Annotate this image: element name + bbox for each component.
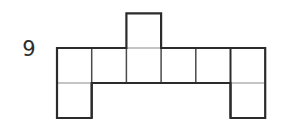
polyomino-grid [0,0,282,126]
figure-container: 9 [0,0,282,126]
